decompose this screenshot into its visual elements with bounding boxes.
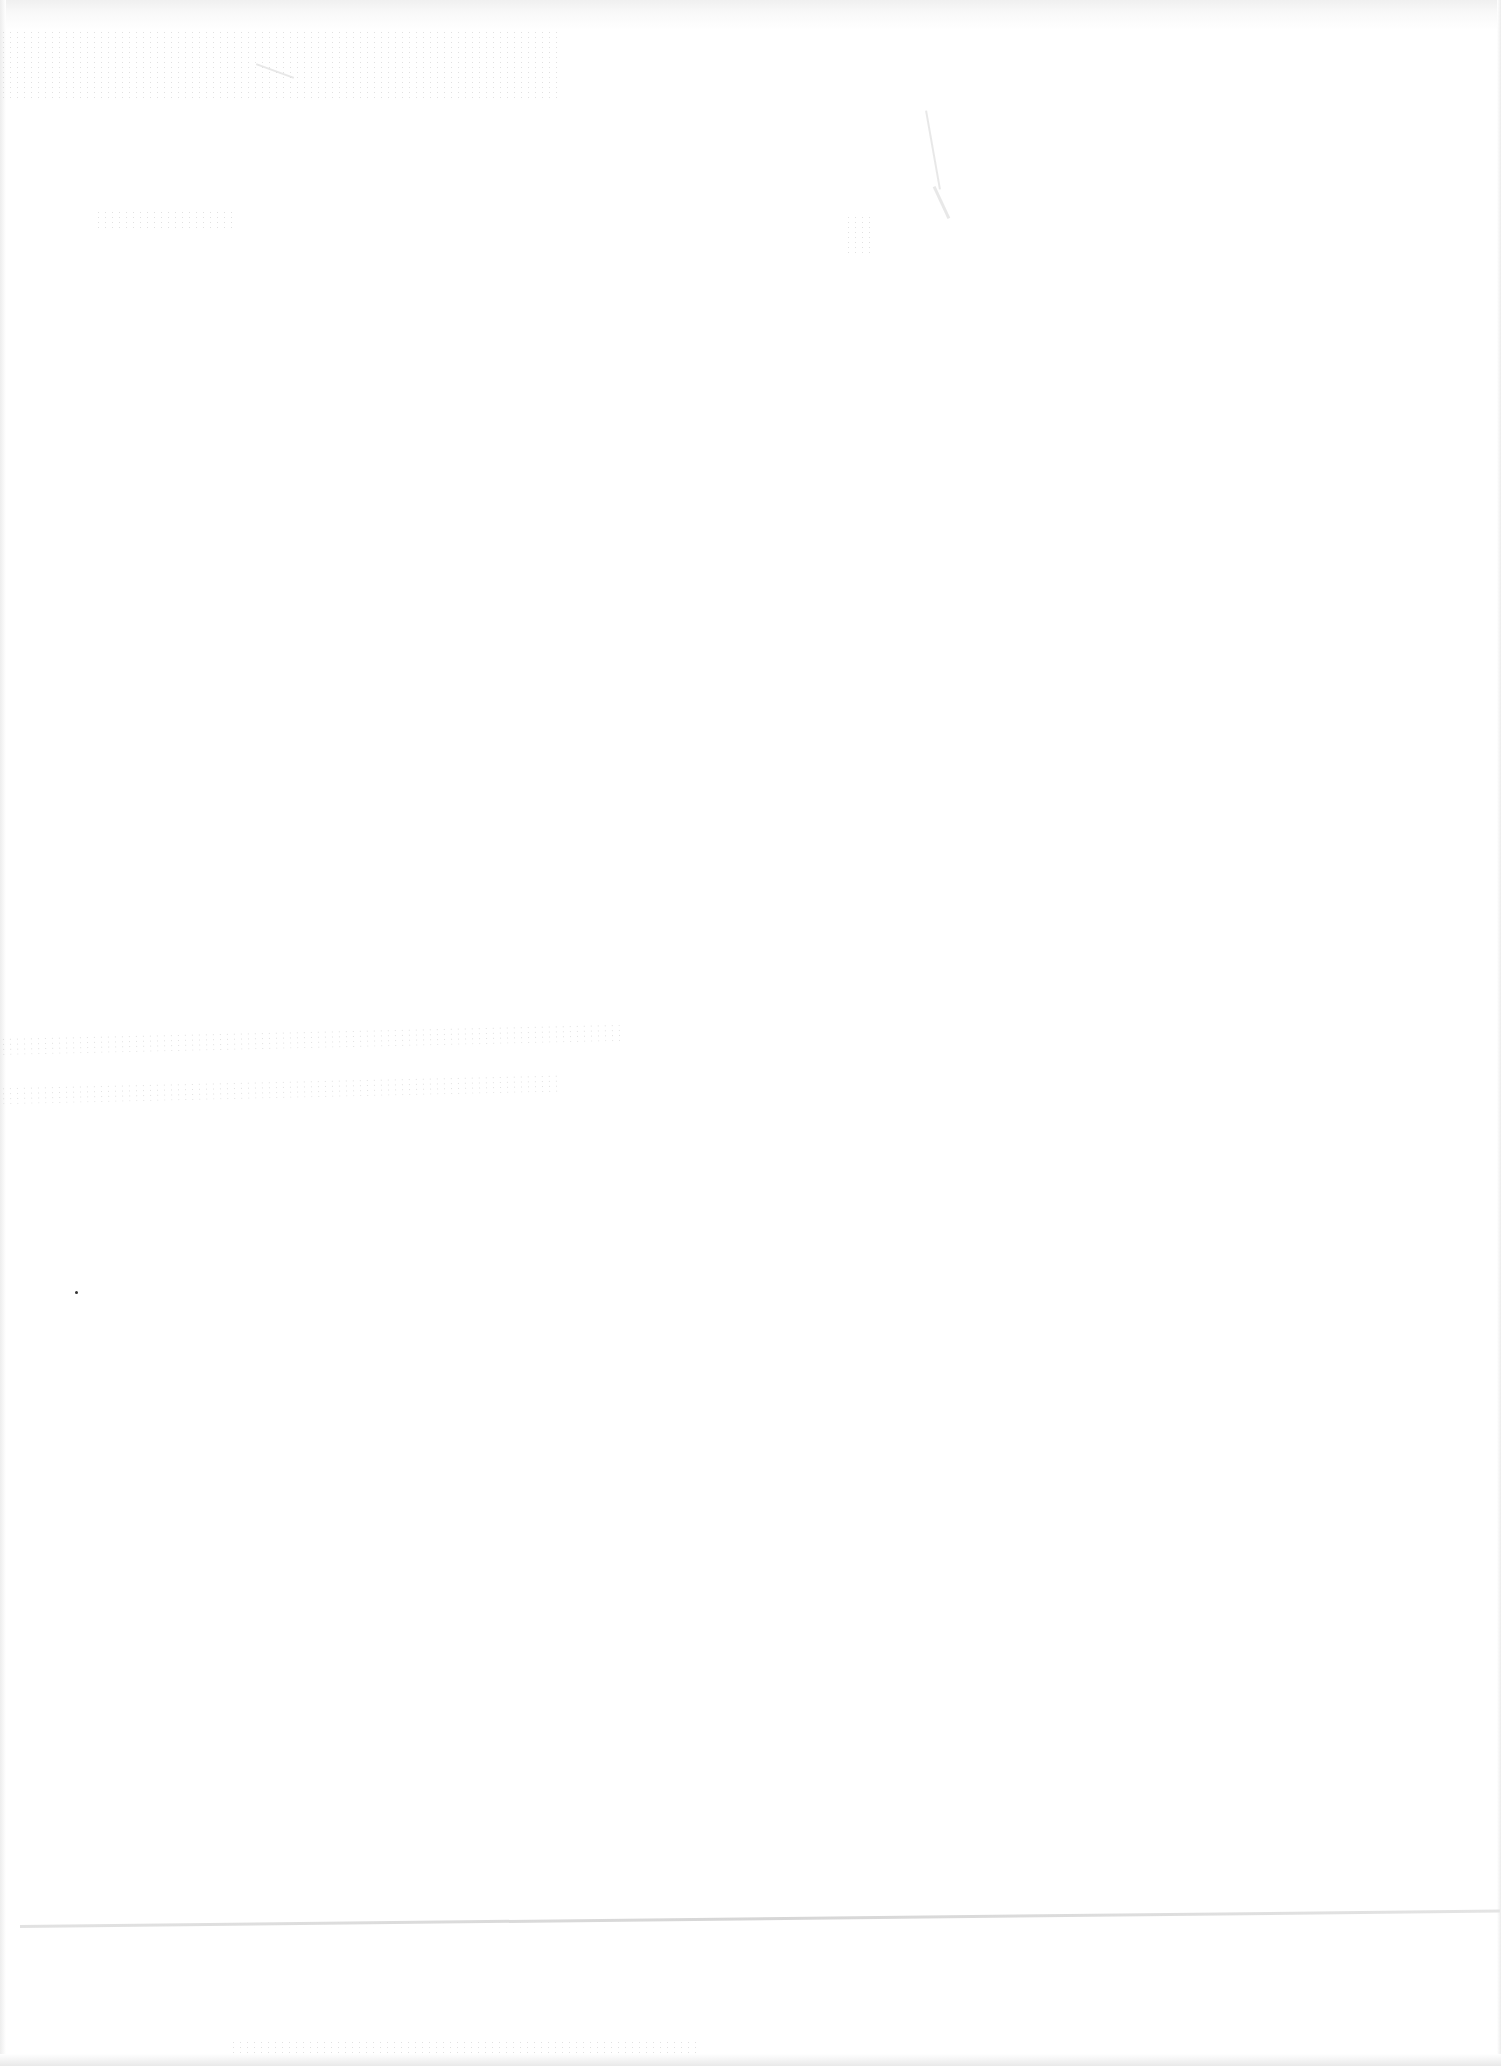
stray-dot — [75, 1291, 78, 1294]
fold-line — [20, 1910, 1500, 1928]
top-left-small-speckle — [95, 210, 235, 232]
scan-bottom-shadow — [0, 2054, 1501, 2066]
mid-left-speckle-line-2 — [0, 1074, 560, 1105]
scan-top-shadow — [0, 0, 1501, 30]
top-left-speckle — [0, 30, 560, 100]
top-center-stroke-2 — [933, 186, 951, 219]
top-center-speckle — [845, 215, 870, 255]
scan-right-edge — [1497, 0, 1501, 2066]
scan-left-edge — [0, 0, 6, 2066]
scanned-page — [0, 0, 1501, 2066]
mid-left-speckle-line-1 — [0, 1023, 620, 1055]
top-center-stroke-1 — [925, 110, 941, 189]
